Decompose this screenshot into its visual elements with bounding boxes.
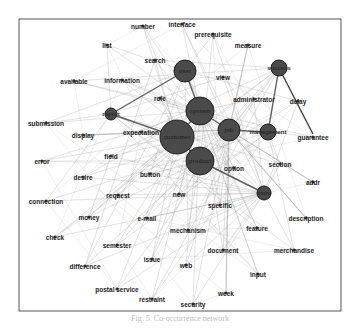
node-label: web [179,262,193,269]
node-label: prerequisite [194,31,232,39]
node-label: addr [306,179,321,186]
node-label: list [102,42,112,49]
node-label: postal service [95,286,139,294]
node-label: administrator [233,96,275,103]
edge [152,137,177,259]
edge [229,130,306,218]
node-label: number [131,23,155,30]
node-label: issue [144,256,161,263]
node-label: information [104,77,140,84]
node-label: display [72,132,95,140]
edge [155,60,279,68]
node-label: submission [28,120,64,127]
edge [152,265,186,299]
node-label: connection [29,198,64,205]
node-label: search [145,57,166,64]
node-label: section [269,161,292,168]
edge [74,81,200,111]
node-label: desire [73,174,93,181]
node-label: restraint [139,296,166,303]
node-label: money [79,214,100,222]
node-label: delay [290,98,307,106]
node-label: measure [235,42,262,49]
node-label: job [224,127,234,133]
node-label: error [34,158,50,165]
node-label: expectation [123,129,159,137]
node-label: guarantee [297,134,328,142]
node-label: request [106,192,130,200]
edge [147,218,294,250]
node-label: week [217,290,234,297]
edge [117,193,264,289]
node-label: view [216,74,231,81]
node-label: field [104,153,117,160]
node-label: product [189,158,211,164]
node-label: store [257,190,272,196]
figure-caption: Fig. 5. Co-occurrence network [0,314,360,323]
edge [46,114,111,201]
edge [264,193,294,250]
node-label: check [46,234,65,241]
node-label: difference [69,263,100,270]
network-diagram: customersystemproductuserjobsuccessmanag… [0,0,360,329]
node-label: description [288,215,323,223]
node-label: available [60,78,88,85]
node-label: management [249,129,286,135]
node-label: report [102,111,119,117]
node-label: document [207,247,239,254]
node-label: role [154,95,166,102]
node-label: button [140,171,160,178]
node-label: user [179,68,192,74]
node-label: success [267,65,291,71]
edge [74,24,182,81]
edge [268,132,294,250]
node-label: e-mail [138,215,157,222]
node-label: feature [246,225,268,232]
node-label: new [173,191,187,198]
node-label: input [250,271,267,279]
node-label: option [224,165,244,173]
node-label: system [190,108,211,114]
node-label: interface [168,21,195,28]
node-label: mechanism [170,227,206,234]
node-label: merchandise [274,247,314,254]
node-label: customer [163,134,191,140]
node-label: specific [208,202,233,210]
edge [74,81,83,135]
node-label: semester [103,242,132,249]
node-label: security [181,301,206,309]
